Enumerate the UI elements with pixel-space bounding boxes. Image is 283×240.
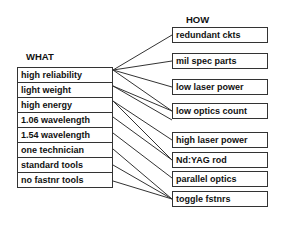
what-item: light weight [17, 82, 113, 98]
what-item: 1.06 wavelength [17, 112, 113, 128]
how-item: Nd:YAG rod [172, 152, 268, 168]
what-item: high reliability [17, 67, 113, 83]
how-item: low laser power [172, 79, 268, 95]
what-item: no fastnr tools [17, 172, 113, 188]
what-list: high reliability light weight high energ… [17, 68, 113, 188]
what-item: standard tools [17, 157, 113, 173]
how-item: low optics count [172, 103, 268, 119]
what-item: one technician [17, 142, 113, 158]
how-item: high laser power [172, 132, 268, 148]
how-item: redundant ckts [172, 27, 268, 43]
how-item: parallel optics [172, 171, 268, 187]
what-item: 1.54 wavelength [17, 127, 113, 143]
how-item: toggle fstnrs [172, 191, 268, 207]
how-item: mil spec parts [172, 53, 268, 69]
what-item: high energy [17, 97, 113, 113]
